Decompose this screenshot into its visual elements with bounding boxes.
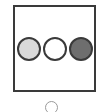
swatch-light-gray bbox=[17, 37, 41, 61]
swatch-dark-gray bbox=[69, 37, 93, 61]
option-radio-button[interactable] bbox=[45, 101, 58, 112]
swatch-white bbox=[43, 37, 67, 61]
option-card[interactable] bbox=[13, 5, 96, 92]
